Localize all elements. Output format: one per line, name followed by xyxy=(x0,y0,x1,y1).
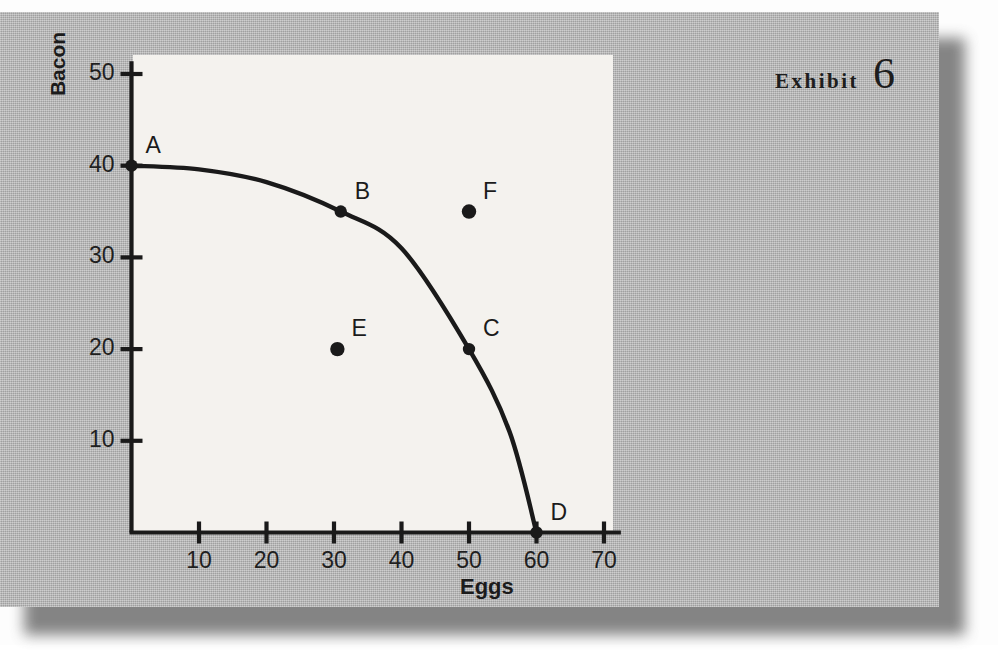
point-label-c: C xyxy=(483,315,500,342)
x-tick-label: 70 xyxy=(580,547,628,574)
data-point-c[interactable] xyxy=(463,343,475,355)
x-tick-label: 40 xyxy=(378,547,426,574)
axes-layer xyxy=(121,61,621,543)
y-tick-label: 50 xyxy=(61,59,115,86)
data-point-d[interactable] xyxy=(530,526,542,538)
y-tick-label: 10 xyxy=(61,426,115,453)
x-tick-label: 10 xyxy=(175,547,223,574)
exhibit-card: Exhibit 6 Bacon Eggs 1020304050102030405… xyxy=(0,12,939,607)
y-tick-label: 20 xyxy=(61,334,115,361)
point-label-a: A xyxy=(146,132,161,159)
point-label-b: B xyxy=(355,178,370,205)
data-point-e[interactable] xyxy=(330,342,344,356)
y-tick-label: 30 xyxy=(61,242,115,269)
data-point-a[interactable] xyxy=(125,160,137,172)
data-points-layer xyxy=(125,160,542,539)
x-tick-label: 30 xyxy=(310,547,358,574)
x-tick-label: 50 xyxy=(445,547,493,574)
point-label-d: D xyxy=(551,499,568,526)
point-label-e: E xyxy=(351,315,366,342)
data-point-f[interactable] xyxy=(462,204,476,218)
x-tick-label: 20 xyxy=(243,547,291,574)
data-point-b[interactable] xyxy=(335,205,347,217)
x-tick-label: 60 xyxy=(513,547,561,574)
y-tick-label: 40 xyxy=(61,151,115,178)
point-label-f: F xyxy=(483,178,497,205)
